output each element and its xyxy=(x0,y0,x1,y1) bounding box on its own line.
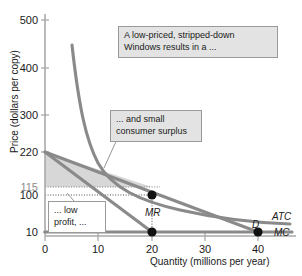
marker-mr-mc-intersection xyxy=(147,227,156,236)
curve-label-atc: ATC xyxy=(272,211,291,222)
curve-label-mc: MC xyxy=(274,227,290,238)
x-axis-title: Quantity (millions per year) xyxy=(150,256,269,267)
profit-callout-leader xyxy=(67,193,74,201)
curve-label-d: D xyxy=(252,219,259,230)
x-tick-label-0: 0 xyxy=(35,243,55,255)
x-tick-label-30: 30 xyxy=(195,243,215,255)
marker-profit-max-output xyxy=(147,190,156,199)
y-tick-label-500: 500 xyxy=(8,14,38,26)
callout-small-consumer-surplus: ... and small consumer surplus xyxy=(110,110,202,142)
callout-low-priced-windows: A low-priced, stripped-down Windows resu… xyxy=(118,26,278,58)
curve-label-mr: MR xyxy=(145,207,161,218)
x-tick-label-10: 10 xyxy=(88,243,108,255)
x-tick-label-40: 40 xyxy=(248,243,268,255)
callout-low-profit: ... low profit, ... xyxy=(48,201,106,233)
y-tick-label-10: 10 xyxy=(8,226,38,238)
economics-chart-figure: 500 400 300 220 115 100 10 0 10 20 30 40… xyxy=(0,0,302,276)
y-tick-label-100: 100 xyxy=(8,189,38,201)
x-tick-label-20: 20 xyxy=(142,243,162,255)
y-axis-title: Price (dollars per copy) xyxy=(9,42,20,162)
